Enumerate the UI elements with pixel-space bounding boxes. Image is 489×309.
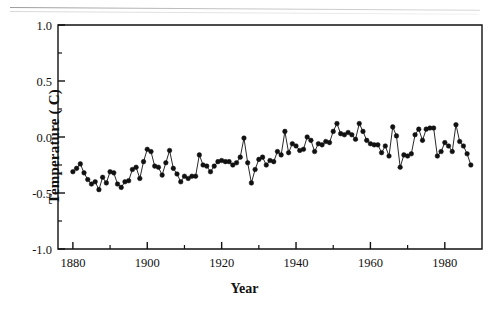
data-point-marker [126, 178, 131, 183]
temperature-anomaly-line-chart: -1.0-0.50.00.51.018801900192019401960198… [0, 0, 489, 309]
data-point-marker [387, 154, 392, 159]
data-point-marker [134, 165, 139, 170]
data-point-marker [78, 162, 83, 167]
data-point-marker [264, 163, 269, 168]
data-point-marker [138, 176, 143, 181]
data-point-marker [416, 127, 421, 132]
data-point-marker [361, 129, 366, 134]
x-tick-label: 1980 [432, 256, 457, 270]
axis-layer [58, 25, 482, 249]
data-point-marker [149, 149, 154, 154]
x-tick-label: 1960 [358, 256, 383, 270]
data-point-marker [104, 181, 109, 186]
data-point-marker [160, 173, 165, 178]
data-point-marker [446, 144, 451, 149]
data-point-marker [379, 150, 384, 155]
data-point-marker [193, 174, 198, 179]
data-point-marker [364, 138, 369, 143]
data-point-marker [93, 180, 98, 185]
data-point-marker [439, 149, 444, 154]
data-point-marker [119, 185, 124, 190]
data-point-marker [350, 132, 355, 137]
data-point-marker [301, 147, 306, 152]
data-point-marker [283, 129, 288, 134]
data-point-marker [238, 155, 243, 160]
data-point-marker [279, 153, 284, 158]
data-series-layer [71, 121, 474, 192]
data-point-marker [312, 149, 317, 154]
data-point-marker [141, 159, 146, 164]
data-point-marker [286, 150, 291, 155]
data-point-marker [353, 137, 358, 142]
data-point-marker [85, 177, 90, 182]
data-point-marker [394, 134, 399, 139]
y-tick-label: 1.0 [36, 19, 52, 33]
data-point-marker [398, 165, 403, 170]
data-point-marker [275, 149, 280, 154]
data-point-marker [469, 163, 474, 168]
data-point-marker [204, 164, 209, 169]
data-point-marker [156, 165, 161, 170]
data-point-marker [357, 121, 362, 126]
data-point-marker [115, 182, 120, 187]
y-tick-label: -0.5 [32, 187, 52, 201]
data-point-marker [320, 143, 325, 148]
y-tick-label: -1.0 [32, 243, 52, 257]
data-point-marker [331, 129, 336, 134]
data-point-marker [178, 180, 183, 185]
data-point-marker [212, 164, 217, 169]
data-point-marker [171, 166, 176, 171]
data-point-marker [242, 136, 247, 141]
data-point-marker [335, 121, 340, 126]
data-point-marker [461, 144, 466, 149]
figure-container: Temperature ( C) Year -1.0-0.50.00.51.01… [0, 0, 489, 309]
data-point-marker [443, 140, 448, 145]
data-point-marker [227, 159, 232, 164]
data-point-marker [327, 140, 332, 145]
data-point-marker [197, 153, 202, 158]
data-point-marker [309, 138, 314, 143]
data-point-marker [271, 159, 276, 164]
data-point-marker [175, 172, 180, 177]
data-point-marker [245, 160, 250, 165]
y-tick-label: 0.5 [36, 75, 52, 89]
data-point-marker [376, 143, 381, 148]
data-point-marker [97, 187, 102, 192]
data-point-marker [450, 149, 455, 154]
data-point-marker [390, 125, 395, 130]
plot-frame [58, 25, 482, 249]
data-point-marker [409, 152, 414, 157]
data-point-marker [234, 160, 239, 165]
data-point-marker [465, 152, 470, 157]
x-tick-label: 1880 [60, 256, 85, 270]
data-point-marker [164, 160, 169, 165]
data-line [73, 124, 471, 190]
data-point-marker [71, 169, 76, 174]
data-point-marker [208, 169, 213, 174]
data-point-marker [260, 155, 265, 160]
data-point-marker [100, 175, 105, 180]
x-tick-label: 1940 [284, 256, 309, 270]
y-tick-label: 0.0 [36, 131, 52, 145]
data-point-marker [74, 166, 79, 171]
data-point-marker [249, 181, 254, 186]
data-point-marker [82, 171, 87, 176]
data-point-marker [435, 154, 440, 159]
data-point-marker [431, 126, 436, 131]
data-point-marker [294, 144, 299, 149]
data-point-marker [420, 138, 425, 143]
x-tick-label: 1920 [209, 256, 234, 270]
data-point-marker [413, 132, 418, 137]
data-point-marker [305, 135, 310, 140]
data-point-marker [457, 139, 462, 144]
data-point-marker [111, 171, 116, 176]
data-point-marker [167, 148, 172, 153]
data-point-marker [253, 167, 258, 172]
data-point-marker [454, 122, 459, 127]
x-tick-label: 1900 [135, 256, 160, 270]
data-point-marker [383, 144, 388, 149]
